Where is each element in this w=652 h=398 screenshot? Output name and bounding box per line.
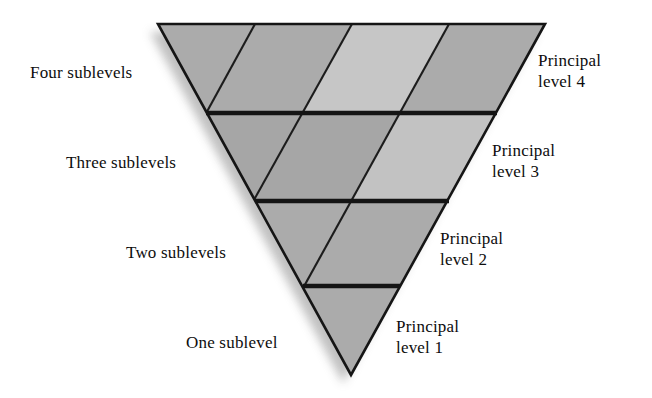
label-principal-level-4: Principal level 4 — [538, 50, 601, 92]
label-principal-level-2: Principal level 2 — [440, 228, 503, 270]
label-four-sublevels: Four sublevels — [30, 62, 132, 83]
label-two-sublevels: Two sublevels — [126, 242, 226, 263]
principal-level-3-line2: level 3 — [492, 161, 555, 182]
principal-level-1-line2: level 1 — [396, 337, 459, 358]
principal-level-4-line1: Principal — [538, 50, 601, 71]
principal-level-1-line1: Principal — [396, 316, 459, 337]
label-one-sublevel: One sublevel — [186, 332, 278, 353]
principal-level-2-line2: level 2 — [440, 249, 503, 270]
principal-level-3-line1: Principal — [492, 140, 555, 161]
label-principal-level-1: Principal level 1 — [396, 316, 459, 358]
principal-level-4-line2: level 4 — [538, 71, 601, 92]
label-principal-level-3: Principal level 3 — [492, 140, 555, 182]
label-three-sublevels: Three sublevels — [66, 152, 176, 173]
diagram-canvas: Four sublevels Three sublevels Two suble… — [0, 0, 652, 398]
principal-level-2-line1: Principal — [440, 228, 503, 249]
